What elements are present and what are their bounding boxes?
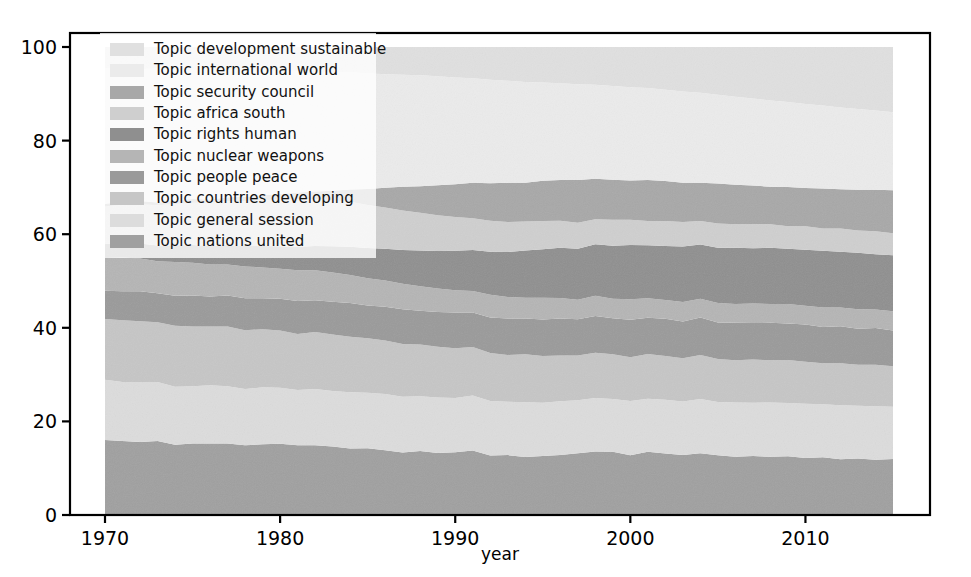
legend-item-label: Topic nations united	[154, 234, 304, 249]
legend-item-label: Topic rights human	[154, 127, 297, 142]
x-tick-label: 2000	[606, 527, 654, 549]
legend-swatch-icon	[110, 107, 144, 120]
x-tick-label: 1970	[81, 527, 129, 549]
legend-item-label: Topic international world	[154, 63, 338, 78]
legend-swatch-icon	[110, 64, 144, 77]
y-axis-ticks: 020406080100	[21, 36, 70, 526]
legend-item[interactable]: Topic nations united	[104, 231, 370, 252]
y-tick-label: 60	[33, 223, 57, 245]
x-tick-label: 1990	[431, 527, 479, 549]
legend-item-label: Topic general session	[154, 213, 314, 228]
legend-swatch-icon	[110, 43, 144, 56]
legend-item[interactable]: Topic development sustainable	[104, 39, 370, 60]
legend-swatch-icon	[110, 214, 144, 227]
legend-item-label: Topic africa south	[154, 106, 285, 121]
x-tick-label: 1980	[256, 527, 304, 549]
legend-item-label: Topic security council	[154, 85, 314, 100]
legend-item[interactable]: Topic africa south	[104, 103, 370, 124]
legend-item[interactable]: Topic international world	[104, 60, 370, 81]
figure-canvas: 020406080100 19701980199020002010 year T…	[0, 0, 971, 577]
y-tick-label: 40	[33, 317, 57, 339]
y-tick-label: 20	[33, 410, 57, 432]
legend-swatch-icon	[110, 235, 144, 248]
legend-item-label: Topic people peace	[154, 170, 298, 185]
legend-item-label: Topic countries developing	[154, 191, 354, 206]
legend-item[interactable]: Topic people peace	[104, 167, 370, 188]
legend-item-label: Topic nuclear weapons	[154, 149, 324, 164]
x-axis-ticks: 19701980199020002010	[81, 515, 830, 549]
legend-item[interactable]: Topic general session	[104, 209, 370, 230]
x-tick-label: 2010	[781, 527, 829, 549]
legend-item[interactable]: Topic countries developing	[104, 188, 370, 209]
chart-legend[interactable]: Topic development sustainableTopic inter…	[100, 33, 376, 258]
legend-swatch-icon	[110, 128, 144, 141]
legend-swatch-icon	[110, 192, 144, 205]
legend-item[interactable]: Topic security council	[104, 82, 370, 103]
legend-swatch-icon	[110, 86, 144, 99]
y-tick-label: 0	[45, 504, 57, 526]
y-tick-label: 80	[33, 130, 57, 152]
y-tick-label: 100	[21, 36, 57, 58]
legend-swatch-icon	[110, 150, 144, 163]
x-axis-title: year	[481, 544, 519, 564]
legend-item[interactable]: Topic nuclear weapons	[104, 145, 370, 166]
legend-swatch-icon	[110, 171, 144, 184]
legend-item-label: Topic development sustainable	[154, 42, 386, 57]
legend-item[interactable]: Topic rights human	[104, 124, 370, 145]
